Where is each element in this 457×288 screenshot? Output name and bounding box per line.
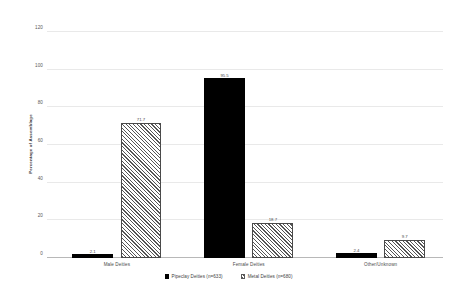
- bar-group-female-deities: 95.5 18.7 Female Deities: [187, 32, 311, 258]
- y-tick-label: 80: [38, 100, 43, 105]
- bar-value-label: 71.7: [137, 117, 145, 122]
- x-category-label: Male Deities: [104, 262, 130, 267]
- legend-item-metal[interactable]: Metal Deities (n=680): [241, 274, 293, 279]
- bar-value-label: 18.7: [269, 217, 277, 222]
- y-tick-label: 100: [35, 62, 43, 67]
- legend-item-pipeclay[interactable]: Pipeclay Deities (n=633): [165, 274, 223, 279]
- plot-area: 0 20 40 60 80 100 120 2.1 71.7 Male Deit…: [47, 32, 443, 258]
- y-tick-label: 60: [38, 138, 43, 143]
- y-axis-title: Percentage of Assemblage: [28, 114, 33, 174]
- bar-metal-male[interactable]: 71.7: [121, 123, 162, 258]
- bar-metal-other[interactable]: 9.7: [384, 240, 425, 258]
- legend-label: Pipeclay Deities (n=633): [172, 274, 223, 279]
- bar-value-label: 2.1: [90, 249, 96, 254]
- y-tick-label: 20: [38, 213, 43, 218]
- legend-swatch-icon: [165, 274, 170, 279]
- bar-pipeclay-male[interactable]: 2.1: [72, 254, 113, 258]
- chart-legend: Pipeclay Deities (n=633) Metal Deities (…: [0, 274, 457, 279]
- bar-value-label: 2.4: [353, 248, 359, 253]
- x-category-label: Female Deities: [233, 262, 265, 267]
- legend-label: Metal Deities (n=680): [248, 274, 293, 279]
- bar-value-label: 95.5: [220, 73, 228, 78]
- bar-group-other-unknown: 2.4 9.7 Other/Unknown: [319, 32, 443, 258]
- bar-pipeclay-other[interactable]: 2.4: [336, 253, 377, 258]
- y-tick-label: 0: [40, 251, 43, 256]
- legend-swatch-icon: [241, 274, 246, 279]
- x-category-label: Other/Unknown: [364, 262, 397, 267]
- y-tick-label: 120: [35, 25, 43, 30]
- bar-group-male-deities: 2.1 71.7 Male Deities: [55, 32, 179, 258]
- bar-pipeclay-female[interactable]: 95.5: [204, 78, 245, 258]
- bar-metal-female[interactable]: 18.7: [252, 223, 293, 258]
- bar-value-label: 9.7: [402, 234, 408, 239]
- y-tick-label: 40: [38, 175, 43, 180]
- bar-chart: Percentage of Assemblage 0 20 40 60 80 1…: [0, 0, 457, 288]
